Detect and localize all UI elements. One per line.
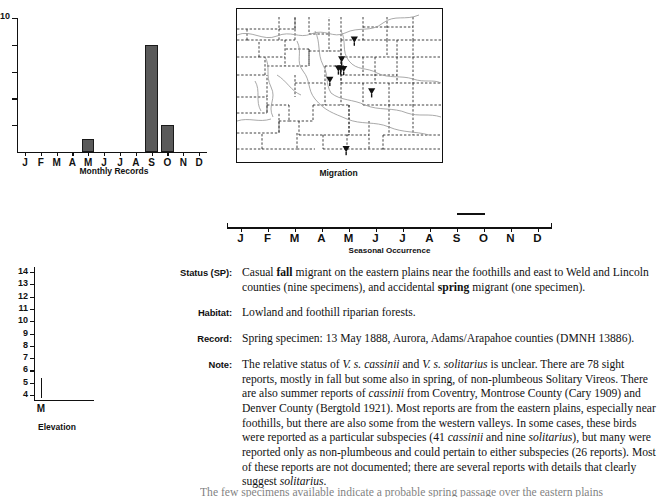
- seasonal-axis-tick: [322, 227, 323, 232]
- seasonal-axis-cap-right: [551, 223, 552, 229]
- elevation-y-tick-label: 13: [18, 278, 28, 288]
- seasonal-caption: Seasonal Occurrence: [222, 246, 557, 255]
- account-field-list: Status (SP):Casual fall migrant on the e…: [148, 266, 658, 490]
- x-axis-line: [17, 152, 207, 153]
- elevation-x-axis-line: [34, 400, 94, 401]
- migration-marker-icon: [368, 88, 375, 97]
- elevation-y-tick-label: 8: [23, 340, 28, 350]
- migration-marker-icon: [338, 56, 345, 65]
- seasonal-axis-tick: [430, 227, 431, 232]
- map-caption: Migration: [231, 168, 446, 178]
- elevation-y-tick-label: 14: [18, 266, 28, 276]
- elevation-y-tick: [30, 346, 34, 347]
- seasonal-axis-tick: [538, 227, 539, 232]
- seasonal-month-label: J: [389, 232, 416, 244]
- rivers: [237, 15, 441, 135]
- migration-marker-icon: [343, 146, 350, 155]
- elevation-y-tick: [30, 297, 34, 298]
- account-field: Record:Spring specimen: 13 May 1888, Aur…: [148, 332, 658, 347]
- elevation-y-tick-label: 5: [23, 377, 28, 387]
- seasonal-occurrence-chart: JFMAMJJASOND Seasonal Occurrence: [222, 205, 562, 250]
- elevation-y-tick: [30, 272, 34, 273]
- seasonal-axis-tick: [295, 227, 296, 232]
- account-field-body: The relative status of V. s. cassinii an…: [242, 358, 658, 490]
- elevation-y-axis-line: [34, 267, 35, 400]
- elevation-y-tick: [30, 334, 34, 335]
- elevation-y-tick: [30, 358, 34, 359]
- y-axis-tick: [12, 45, 17, 46]
- elevation-y-tick: [30, 395, 34, 396]
- account-field-label: Status (SP):: [148, 266, 242, 295]
- x-axis-tick: [25, 152, 26, 156]
- monthly-records-caption: Monthly Records: [0, 166, 228, 176]
- seasonal-occurrence-span: [457, 213, 485, 215]
- seasonal-month-label: A: [416, 232, 443, 244]
- y-axis-top-label: 10: [0, 11, 10, 21]
- x-axis-tick: [136, 152, 137, 156]
- truncated-next-paragraph: The few specimens available indicate a p…: [200, 486, 658, 497]
- elevation-y-tick: [30, 383, 34, 384]
- account-field-label: Record:: [148, 332, 242, 347]
- elevation-y-tick: [30, 370, 34, 371]
- account-field-label: Habitat:: [148, 306, 242, 321]
- elevation-plot: 1413121110987654 M: [34, 267, 94, 400]
- elevation-y-tick: [30, 321, 34, 322]
- seasonal-month-label: N: [497, 232, 524, 244]
- bar: [82, 139, 94, 152]
- x-axis-tick: [120, 152, 121, 156]
- y-axis-tick: [12, 72, 17, 73]
- x-axis-tick: [72, 152, 73, 156]
- elevation-y-tick-label: 12: [18, 291, 28, 301]
- species-account-text: Status (SP):Casual fall migrant on the e…: [148, 266, 658, 497]
- elevation-y-tick-label: 10: [18, 315, 28, 325]
- x-axis-tick: [199, 152, 200, 156]
- elevation-y-tick-label: 7: [23, 352, 28, 362]
- x-axis-tick: [167, 152, 168, 156]
- seasonal-axis-tick: [376, 227, 377, 232]
- x-axis-tick: [183, 152, 184, 156]
- seasonal-month-label: J: [362, 232, 389, 244]
- seasonal-month-label: J: [227, 232, 254, 244]
- account-field: Habitat:Lowland and foothill riparian fo…: [148, 306, 658, 321]
- bar: [161, 125, 173, 152]
- elevation-y-tick: [30, 309, 34, 310]
- y-axis-tick: [12, 18, 17, 19]
- seasonal-month-label: A: [308, 232, 335, 244]
- county-boundaries: [237, 17, 441, 149]
- monthly-records-plot: 10 JFMAMJJASOND: [17, 18, 207, 152]
- elevation-range-bar: [41, 378, 42, 398]
- elevation-caption: Elevation: [2, 422, 112, 432]
- account-field-body: Lowland and foothill riparian forests.: [242, 306, 658, 321]
- seasonal-axis-tick: [403, 227, 404, 232]
- seasonal-month-label: M: [335, 232, 362, 244]
- elevation-y-tick: [30, 284, 34, 285]
- seasonal-axis-tick: [349, 227, 350, 232]
- elevation-y-tick-label: 9: [23, 328, 28, 338]
- seasonal-month-label: D: [524, 232, 551, 244]
- seasonal-axis-cap-left: [227, 223, 228, 229]
- map-svg: [237, 9, 441, 161]
- migration-marker-group: [326, 37, 375, 156]
- x-axis-tick: [152, 152, 153, 156]
- y-axis-tick: [12, 125, 17, 126]
- elevation-chart: 1413121110987654 M Elevation: [2, 262, 122, 442]
- x-axis-tick: [41, 152, 42, 156]
- monthly-records-chart: 10 JFMAMJJASOND Monthly Records: [0, 0, 228, 185]
- account-field-body: Casual fall migrant on the eastern plain…: [242, 266, 658, 295]
- account-field-label: Note:: [148, 358, 242, 490]
- y-axis-tick: [12, 98, 17, 99]
- account-field: Status (SP):Casual fall migrant on the e…: [148, 266, 658, 295]
- migration-marker-icon: [351, 37, 358, 46]
- account-field: Note:The relative status of V. s. cassin…: [148, 358, 658, 490]
- x-axis-tick: [104, 152, 105, 156]
- elevation-y-tick-label: 11: [18, 303, 28, 313]
- seasonal-axis-tick: [484, 227, 485, 232]
- elevation-x-label: M: [26, 403, 56, 414]
- seasonal-month-label: O: [470, 232, 497, 244]
- seasonal-month-label: F: [254, 232, 281, 244]
- seasonal-axis-tick: [241, 227, 242, 232]
- colorado-county-map: [236, 8, 443, 163]
- migration-map-panel: Migration: [231, 2, 459, 188]
- seasonal-axis-line: [227, 227, 552, 229]
- x-axis-tick: [88, 152, 89, 156]
